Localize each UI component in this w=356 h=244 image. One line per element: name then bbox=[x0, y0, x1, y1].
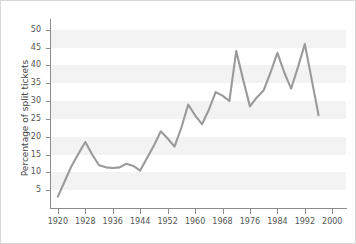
y-tick-label: 15 bbox=[31, 151, 41, 159]
x-tick-label: 2000 bbox=[312, 217, 352, 226]
y-tick-mark bbox=[46, 190, 51, 191]
x-tick-mark bbox=[168, 209, 169, 214]
y-tick-mark bbox=[46, 30, 51, 31]
y-tick-label: 35 bbox=[31, 79, 41, 87]
x-tick-mark bbox=[195, 209, 196, 214]
y-tick-label: 5 bbox=[36, 186, 41, 194]
y-tick-label: 10 bbox=[31, 168, 41, 176]
line-series-layer bbox=[51, 19, 346, 208]
y-tick-mark bbox=[46, 101, 51, 102]
split-tickets-line bbox=[58, 44, 319, 197]
x-tick-mark bbox=[58, 209, 59, 214]
y-tick-label: 30 bbox=[31, 97, 41, 105]
x-tick-mark bbox=[332, 209, 333, 214]
x-tick-mark bbox=[113, 209, 114, 214]
x-tick-mark bbox=[277, 209, 278, 214]
x-tick-mark bbox=[305, 209, 306, 214]
x-tick-mark bbox=[223, 209, 224, 214]
y-tick-label: 20 bbox=[31, 133, 41, 141]
y-tick-mark bbox=[46, 48, 51, 49]
y-tick-label: 50 bbox=[31, 26, 41, 34]
x-tick-mark bbox=[140, 209, 141, 214]
y-tick-label: 25 bbox=[31, 115, 41, 123]
plot-area bbox=[51, 19, 346, 208]
y-tick-mark bbox=[46, 83, 51, 84]
y-tick-label: 40 bbox=[31, 61, 41, 69]
x-axis-line bbox=[50, 208, 347, 209]
x-tick-mark bbox=[85, 209, 86, 214]
y-tick-mark bbox=[46, 65, 51, 66]
y-tick-mark bbox=[46, 172, 51, 173]
y-tick-mark bbox=[46, 119, 51, 120]
x-tick-mark bbox=[250, 209, 251, 214]
y-tick-label: 45 bbox=[31, 44, 41, 52]
y-tick-mark bbox=[46, 155, 51, 156]
chart-figure: 5101520253035404550 19201928193619441952… bbox=[0, 0, 356, 244]
y-axis-label: Percentage of split tickets bbox=[20, 38, 30, 198]
y-tick-mark bbox=[46, 137, 51, 138]
